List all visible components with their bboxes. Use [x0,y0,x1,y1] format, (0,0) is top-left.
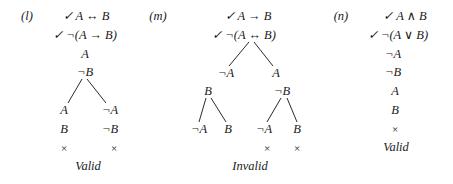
closed-branch-mark: × [294,143,300,154]
tree-node: ¬B [274,85,290,98]
tree-node: ¬A [218,67,234,80]
tree-node: A [81,48,89,61]
panel-label: (l) [21,10,33,23]
tree-node: B [293,123,301,136]
tree-node: ¬A [102,104,118,117]
verdict-label: Valid [383,141,409,154]
tree-node: A [60,104,68,117]
tree-node: B [224,123,232,136]
tree-node: ¬B [102,123,118,136]
negated-conclusion-line: ✓ ¬(A ↔ B) [212,29,276,42]
closed-branch-mark: × [392,124,398,135]
tree-node: B [204,85,212,98]
panel-label: (n) [334,10,349,23]
closed-branch-mark: × [264,143,270,154]
panel-label: (m) [149,10,166,23]
closed-branch-mark: × [61,143,67,154]
negated-conclusion-line: ✓ ¬(A → B) [53,29,117,42]
verdict-label: Valid [75,160,101,173]
tree-node: A [391,85,399,98]
negated-conclusion-line: ✓ ¬(A ∨ B) [368,29,428,42]
verdict-label: Invalid [232,160,267,173]
tree-node: ¬A [385,48,401,61]
tree-node: ¬A [191,123,207,136]
tree-node: B [391,104,399,117]
closed-branch-mark: × [111,143,117,154]
premise-line: ✓ A ∧ B [383,10,426,23]
premise-line: ✓ A ↔ B [63,10,110,23]
tree-node: ¬A [256,123,272,136]
premise-line: ✓ A → B [225,10,272,23]
tree-node: A [272,67,280,80]
tree-node: ¬B [385,66,401,79]
tree-node: B [60,123,68,136]
tree-node: ¬B [77,66,93,79]
